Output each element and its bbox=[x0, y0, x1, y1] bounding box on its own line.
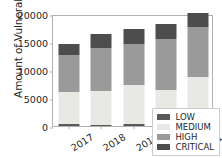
x-tick-mark bbox=[101, 126, 102, 129]
chart-legend: LOWMEDIUMHIGHCRITICAL bbox=[152, 108, 220, 156]
y-tick-mark bbox=[50, 72, 53, 73]
y-tick-mark bbox=[50, 100, 53, 101]
bar-segment-critical bbox=[123, 29, 144, 44]
bar-segment-medium bbox=[123, 85, 144, 125]
bar-segment-high bbox=[59, 55, 80, 92]
legend-swatch-icon bbox=[157, 134, 170, 140]
legend-item: CRITICAL bbox=[157, 142, 214, 152]
y-tick-label: 10000 bbox=[18, 67, 53, 77]
y-tick-label: 15000 bbox=[18, 39, 53, 49]
bar-segment-high bbox=[155, 39, 176, 91]
bar-segment-critical bbox=[91, 34, 112, 49]
x-tick-label: 2018 bbox=[102, 132, 128, 153]
legend-label: CRITICAL bbox=[175, 143, 214, 152]
legend-item: HIGH bbox=[157, 132, 214, 142]
bar-stack bbox=[91, 34, 112, 126]
y-tick-label: 5000 bbox=[24, 95, 53, 105]
bar-stack bbox=[59, 44, 80, 126]
bar-segment-high bbox=[187, 27, 208, 76]
x-tick-mark bbox=[69, 126, 70, 129]
bar-segment-high bbox=[91, 48, 112, 91]
bar-stack bbox=[123, 29, 144, 126]
legend-swatch-icon bbox=[157, 114, 170, 120]
bar-segment-high bbox=[123, 44, 144, 84]
x-tick-label: 2017 bbox=[70, 132, 96, 153]
legend-swatch-icon bbox=[157, 144, 170, 150]
bar-segment-critical bbox=[155, 24, 176, 39]
y-tick-mark bbox=[50, 44, 53, 45]
chart-figure: Amount of Vulnerabilities 05000100001500… bbox=[0, 0, 222, 158]
legend-label: MEDIUM bbox=[175, 123, 210, 132]
legend-swatch-icon bbox=[157, 124, 170, 130]
bar-segment-critical bbox=[59, 44, 80, 56]
legend-item: MEDIUM bbox=[157, 122, 214, 132]
legend-item: LOW bbox=[157, 112, 214, 122]
bar-segment-medium bbox=[59, 92, 80, 124]
y-tick-mark bbox=[50, 128, 53, 129]
y-tick-mark bbox=[50, 16, 53, 17]
bar-segment-medium bbox=[91, 91, 112, 125]
legend-label: LOW bbox=[175, 113, 195, 122]
bar-segment-critical bbox=[187, 13, 208, 27]
x-tick-mark bbox=[133, 126, 134, 129]
legend-label: HIGH bbox=[175, 133, 197, 142]
y-tick-label: 20000 bbox=[18, 11, 53, 21]
